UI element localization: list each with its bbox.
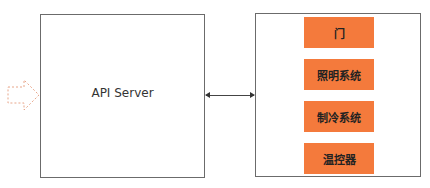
bidirectional-connector <box>206 95 254 96</box>
arrowhead-left-icon <box>205 92 210 98</box>
devices-container: 门 照明系统 制冷系统 温控器 <box>255 13 421 177</box>
device-lighting-system: 照明系统 <box>304 59 374 90</box>
device-cooling-system: 制冷系统 <box>304 101 374 132</box>
device-thermostat: 温控器 <box>304 143 374 174</box>
input-arrow-icon <box>6 78 42 112</box>
device-door: 门 <box>304 17 374 48</box>
api-server-box: API Server <box>40 14 205 178</box>
api-server-label: API Server <box>41 9 204 177</box>
